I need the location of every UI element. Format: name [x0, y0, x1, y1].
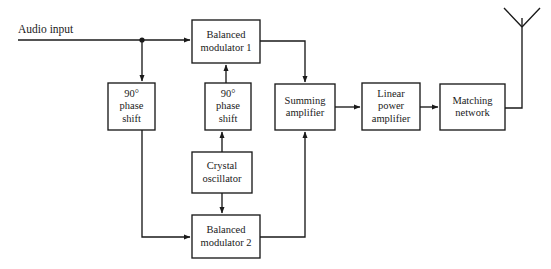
block-diagram: Audio input 90° phase shift Balanced mod…: [0, 0, 551, 269]
block-crystal-oscillator: [192, 152, 252, 193]
block-balanced-modulator-1: [192, 20, 260, 63]
block-phase-shift-audio: [108, 83, 155, 130]
connector-bm2-to-summing: [260, 132, 305, 237]
block-linear-power-amplifier: [362, 83, 420, 130]
block-phase-shift-carrier: [205, 83, 251, 130]
diagram-canvas: [0, 0, 551, 269]
block-summing-amplifier: [275, 84, 335, 130]
block-balanced-modulator-2: [192, 215, 260, 258]
junction-dot-audio: [139, 37, 144, 42]
block-matching-network: [440, 84, 505, 130]
connector-phase-shift-audio-to-bm2: [142, 130, 190, 237]
connector-matching-to-antenna: [505, 18, 522, 108]
connector-bm1-to-summing: [260, 41, 305, 82]
audio-input-label: Audio input: [18, 23, 73, 35]
